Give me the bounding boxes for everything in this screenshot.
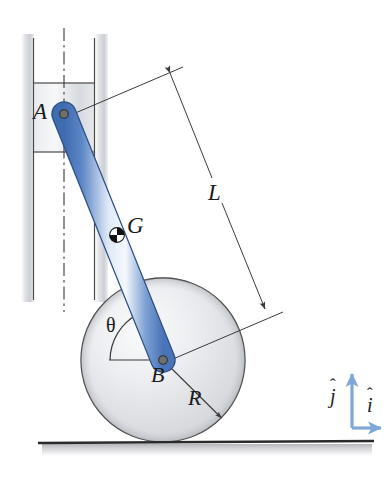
label-unit-vector-j: j (330, 386, 336, 406)
pin-joint-a (60, 110, 69, 119)
label-point-b: B (151, 364, 164, 386)
label-point-a: A (33, 100, 47, 123)
ground-surface (38, 441, 374, 458)
label-angle-theta: θ (106, 315, 116, 335)
label-center-of-mass: G (127, 214, 144, 237)
center-of-mass-icon (110, 228, 125, 243)
label-rod-length: L (208, 181, 221, 204)
label-disk-radius: R (188, 387, 201, 409)
label-unit-vector-i: i (367, 395, 373, 415)
engineering-figure: A G B L R θ ˆ j ˆ i (0, 0, 388, 480)
